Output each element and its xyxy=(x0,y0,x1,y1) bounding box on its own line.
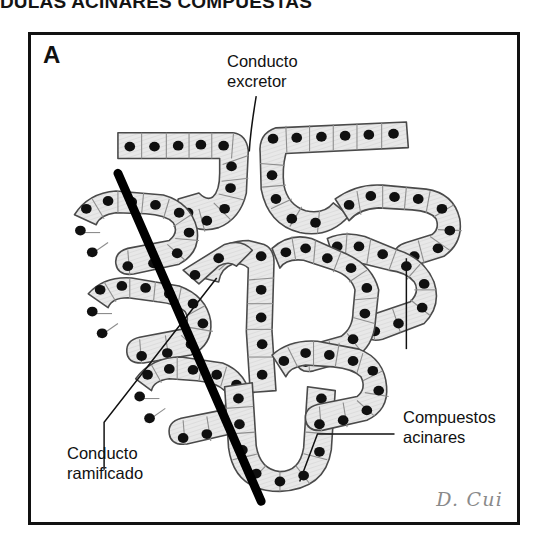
label-conducto-ramificado: Conductoramificado xyxy=(67,443,143,483)
panel-letter: A xyxy=(43,41,60,69)
label-compuestos-acinares-line1: Compuestos xyxy=(403,408,496,426)
leader-conducto-excretor xyxy=(249,96,256,151)
page-title: NDULAS ACINARES COMPUESTAS xyxy=(0,0,312,13)
label-conducto-excretor-line1: Conducto xyxy=(227,52,298,70)
label-compuestos-acinares: Compuestosacinares xyxy=(403,407,496,447)
acinar-ribbon-bottom-right xyxy=(272,341,389,431)
label-conducto-excretor-line2: excretor xyxy=(227,72,287,90)
figure-panel-a: A xyxy=(28,32,520,525)
label-conducto-ramificado-line2: ramificado xyxy=(67,464,143,482)
label-compuestos-acinares-line2: acinares xyxy=(403,428,465,446)
acinar-ribbon-upper-right xyxy=(260,122,408,234)
artist-signature: D. Cui xyxy=(436,488,503,510)
acinar-ribbon-bottom-central xyxy=(225,383,336,492)
acinar-ribbon-left-upper xyxy=(74,191,198,275)
label-conducto-ramificado-line1: Conducto xyxy=(67,444,138,462)
label-conducto-excretor: Conductoexcretor xyxy=(227,51,298,91)
